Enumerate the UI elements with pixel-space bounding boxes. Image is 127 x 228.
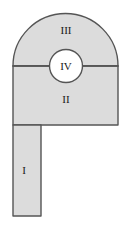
figure-container: III IV II I — [0, 0, 127, 228]
region-ii-label: II — [62, 93, 70, 105]
region-i-label: I — [22, 164, 26, 176]
diagram-canvas: III IV II I — [0, 0, 127, 228]
region-iv-label: IV — [60, 60, 72, 72]
region-i-shape — [13, 125, 41, 216]
region-iii-label: III — [61, 24, 72, 36]
